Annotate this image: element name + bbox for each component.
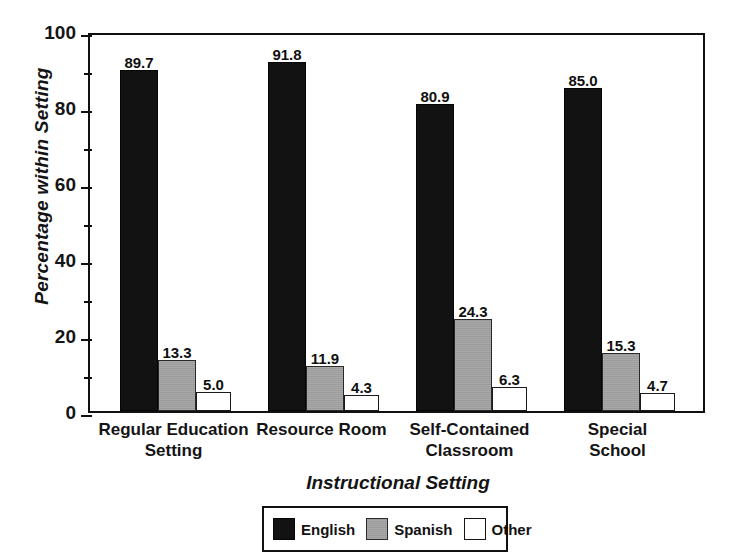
legend-item-english[interactable]: English xyxy=(273,518,355,540)
bar-value-label: 85.0 xyxy=(568,72,597,89)
plot-area: 89.713.35.091.811.94.380.924.36.385.015.… xyxy=(88,33,705,413)
legend-item-other[interactable]: Other xyxy=(464,518,532,540)
x-axis-category-label: Regular Education Setting xyxy=(98,419,248,461)
bar-value-label: 4.3 xyxy=(351,379,372,396)
bar-spanish-4 xyxy=(602,353,640,411)
y-axis-tick-minor xyxy=(84,301,92,303)
bar-spanish-3 xyxy=(454,319,492,411)
x-axis-category-label: Self-Contained Classroom xyxy=(410,419,530,461)
y-axis-tick-minor xyxy=(84,149,92,151)
bar-other-4 xyxy=(640,393,675,411)
y-axis-tick-label: 20 xyxy=(18,326,76,348)
legend-swatch-spanish-icon xyxy=(366,518,388,540)
bar-spanish-2 xyxy=(306,366,344,411)
legend-item-spanish[interactable]: Spanish xyxy=(366,518,452,540)
y-axis-tick-minor xyxy=(84,73,92,75)
bar-other-3 xyxy=(492,387,527,411)
bar-other-1 xyxy=(196,392,231,411)
bar-value-label: 15.3 xyxy=(606,337,635,354)
bar-value-label: 4.7 xyxy=(647,377,668,394)
bar-value-label: 91.8 xyxy=(272,46,301,63)
legend-swatch-english-icon xyxy=(273,518,295,540)
bar-value-label: 5.0 xyxy=(203,376,224,393)
bar-value-label: 6.3 xyxy=(499,371,520,388)
legend-label: Other xyxy=(492,521,532,538)
bar-english-4 xyxy=(564,88,602,411)
chart-legend: EnglishSpanishOther xyxy=(262,506,508,552)
y-axis-tick-label: 100 xyxy=(18,22,76,44)
y-axis-tick-major xyxy=(81,187,92,189)
y-axis-tick-minor xyxy=(84,377,92,379)
y-axis-tick-major xyxy=(81,111,92,113)
x-axis-category-label: Resource Room xyxy=(256,419,386,440)
bar-english-2 xyxy=(268,62,306,411)
y-axis-tick-label: 40 xyxy=(18,250,76,272)
bar-other-2 xyxy=(344,395,379,411)
legend-swatch-other-icon xyxy=(464,518,486,540)
bar-value-label: 11.9 xyxy=(311,350,339,367)
y-axis-tick-label: 60 xyxy=(18,174,76,196)
bar-english-1 xyxy=(120,70,158,411)
y-axis-tick-minor xyxy=(84,225,92,227)
bar-value-label: 24.3 xyxy=(458,303,487,320)
y-axis-tick-major xyxy=(81,339,92,341)
y-axis-tick-label: 0 xyxy=(18,402,76,424)
bar-spanish-1 xyxy=(158,360,196,411)
legend-label: Spanish xyxy=(394,521,452,538)
y-axis-tick-major xyxy=(81,263,92,265)
legend-label: English xyxy=(301,521,355,538)
bar-value-label: 13.3 xyxy=(162,344,191,361)
bar-english-3 xyxy=(416,104,454,411)
bar-value-label: 80.9 xyxy=(420,88,449,105)
bar-value-label: 89.7 xyxy=(124,54,153,71)
y-axis-tick-major xyxy=(81,35,92,37)
x-axis-title: Instructional Setting xyxy=(88,472,708,494)
y-axis-tick-label: 80 xyxy=(18,98,76,120)
y-axis-tick-major xyxy=(81,415,92,417)
x-axis-category-label: Special School xyxy=(561,419,675,461)
